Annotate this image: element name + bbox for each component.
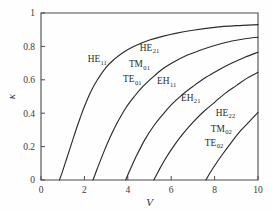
mode-label-subscript: 02 [217,142,224,149]
x-tick-label: 8 [212,185,217,195]
mode-label-he21: HE21 [140,43,159,55]
mode-label-base: HE22 [216,108,235,120]
mode-label-subscript: 22 [229,112,236,119]
mode-annotations-group: HE11HE21TM01TE01EH11EH21HE22TM02TE02 [88,43,236,150]
x-tick-label: 10 [253,185,263,195]
mode-label-base: EH21 [181,93,200,105]
y-tick-label: 0.6 [23,75,35,85]
mode-label-subscript: 11 [170,81,176,88]
axes-group [41,13,258,180]
x-tick-label: 0 [39,185,44,195]
y-tick-label: 0.8 [23,42,35,52]
x-tick-label: 2 [82,185,87,195]
mode-label-he11: HE11 [88,54,107,66]
mode-label-base: HE11 [88,54,107,66]
mode-curve-eh21 [154,72,258,180]
mode-label-te01: TE01 [123,74,141,86]
ticks-group [41,13,258,180]
mode-label-base: TM02 [211,124,232,136]
mode-label-eh21: EH21 [181,93,200,105]
plot-frame [41,13,258,180]
mode-label-base: HE21 [140,43,159,55]
mode-label-tm01: TM01 [129,59,150,71]
mode-label-subscript: 02 [225,128,232,135]
mode-curve-he21-tm01-te01 [93,37,258,180]
y-tick-label: 1 [30,8,35,18]
x-tick-label: 6 [169,185,174,195]
y-tick-label: 0.2 [23,142,35,152]
mode-label-base: EH11 [157,76,176,88]
mode-label-subscript: 01 [143,64,150,71]
mode-label-subscript: 21 [153,47,160,54]
y-tick-label: 0 [30,175,35,185]
x-axis-title: V [146,196,154,208]
y-axis-title: κ [5,93,17,99]
mode-label-he22: HE22 [216,108,235,120]
mode-label-base: TE01 [123,74,141,86]
figure-container: 024681000.20.40.60.81 HE11HE21TM01TE01EH… [0,0,272,212]
mode-label-subscript: 21 [194,97,201,104]
mode-label-base: TM01 [129,59,150,71]
mode-label-subscript: 01 [135,79,142,86]
mode-dispersion-chart: 024681000.20.40.60.81 HE11HE21TM01TE01EH… [0,0,272,212]
mode-label-eh11: EH11 [157,76,176,88]
mode-curve-eh11 [126,52,258,180]
x-tick-label: 4 [125,185,130,195]
y-tick-label: 0.4 [23,109,35,119]
tick-labels-group: 024681000.20.40.60.81 [23,8,263,195]
mode-label-te02: TE02 [205,138,223,150]
mode-label-tm02: TM02 [211,124,232,136]
mode-label-base: TE02 [205,138,223,150]
mode-label-subscript: 11 [101,59,107,66]
